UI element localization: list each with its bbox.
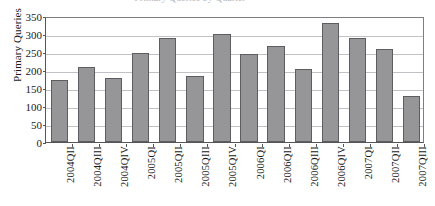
- bar: [78, 67, 95, 142]
- bars-layer: [46, 18, 423, 142]
- x-axis-tick-label: 2006QI: [254, 146, 267, 204]
- bar: [403, 96, 420, 142]
- bar: [267, 46, 284, 142]
- x-axis-tick-label: 2004QIV: [118, 146, 131, 204]
- bar-chart-figure: Primary Queries by Quarter Primary Queri…: [0, 0, 435, 206]
- x-axis-tick-label: 2005QIII: [199, 146, 212, 204]
- bar: [213, 34, 230, 142]
- y-axis-tick-label: 300: [14, 30, 42, 41]
- bar: [376, 49, 393, 142]
- x-axis-tick-label: 2007QI: [362, 146, 375, 204]
- y-axis-tick-labels: 050100150200250300350: [14, 10, 42, 150]
- chart-title-remnant: Primary Queries by Quarter: [40, 0, 340, 7]
- bar: [105, 78, 122, 142]
- bar: [132, 53, 149, 142]
- bar: [186, 76, 203, 142]
- x-axis-tick-label: 2007QII: [389, 146, 402, 204]
- x-axis-tick-label: 2006QII: [281, 146, 294, 204]
- y-axis-tick-label: 0: [14, 138, 42, 149]
- bar: [51, 80, 68, 142]
- x-axis-tick-label: 2007QIII: [416, 146, 429, 204]
- y-axis-tick-label: 350: [14, 12, 42, 23]
- y-axis-tick-label: 200: [14, 66, 42, 77]
- bar: [349, 38, 366, 142]
- chart-title-remnant-text: Primary Queries by Quarter: [40, 0, 340, 3]
- x-axis-tick-labels: 2004QII2004QIII2004QIV2005QI2005QII2005Q…: [45, 148, 424, 206]
- x-axis-tick-label: 2005QI: [145, 146, 158, 204]
- x-axis-tick-label: 2004QIII: [91, 146, 104, 204]
- bar: [159, 38, 176, 142]
- bar: [322, 23, 339, 142]
- x-axis-tick-label: 2004QII: [64, 146, 77, 204]
- y-axis-tick-label: 100: [14, 102, 42, 113]
- x-axis-tick-label: 2005QIV: [226, 146, 239, 204]
- plot-area: [45, 17, 424, 143]
- bar: [240, 54, 257, 142]
- y-axis-tick-label: 50: [14, 120, 42, 131]
- y-axis-tick-label: 150: [14, 84, 42, 95]
- bar: [295, 69, 312, 142]
- x-axis-tick-label: 2006QIII: [308, 146, 321, 204]
- x-axis-tick-label: 2005QII: [172, 146, 185, 204]
- x-axis-tick-label: 2006QIV: [335, 146, 348, 204]
- y-axis-tick-label: 250: [14, 48, 42, 59]
